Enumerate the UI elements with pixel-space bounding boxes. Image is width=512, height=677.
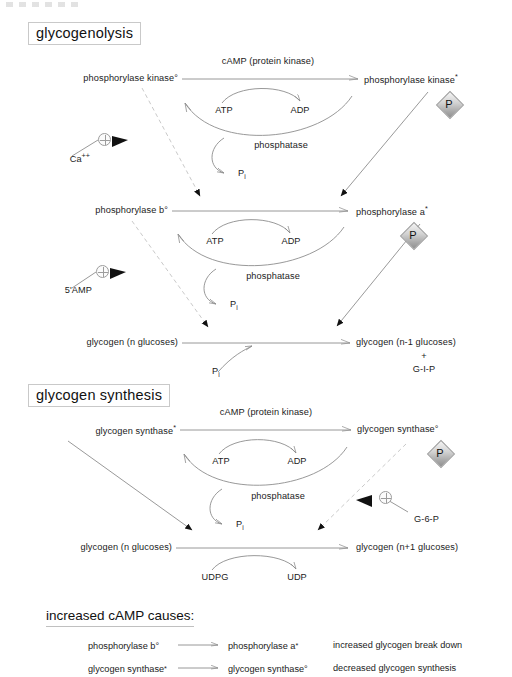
dashed-synthase-inactive-path xyxy=(318,444,406,530)
label-pi-1: Pi xyxy=(238,168,246,180)
arc-phosphatase-pi-2 xyxy=(204,269,216,304)
arrowhead-5amp-activation xyxy=(110,268,126,279)
section-title-glycogen-synthesis: glycogen synthesis xyxy=(28,384,170,407)
label-phosphorylase-kinase-inactive: phosphorylase kinase° xyxy=(83,73,178,83)
label-adp-2: ADP xyxy=(281,236,300,246)
arc-atp-adp-3 xyxy=(219,440,296,454)
arrowhead-g6p-activation xyxy=(356,495,372,507)
label-g-1-p: G-I-P xyxy=(413,364,435,374)
arrowhead-ca-activation xyxy=(112,136,128,147)
arc-pi-into-glycogen xyxy=(218,346,252,372)
arc-udpg-udp xyxy=(212,556,296,570)
label-atp-1: ATP xyxy=(215,105,233,115)
arc-phosphatase-reverse-1 xyxy=(185,96,352,135)
label-camp-protein-kinase-2: cAMP (protein kinase) xyxy=(220,407,312,417)
label-adp-1: ADP xyxy=(290,105,309,115)
summary-row-1-to: phosphorylase a* xyxy=(228,640,298,651)
summary-row-1-from: phosphorylase b° xyxy=(88,640,159,651)
label-phosphorylase-kinase-active: phosphorylase kinase* xyxy=(364,73,458,85)
label-calcium-activator: Ca++ xyxy=(70,152,90,164)
label-pi-2: Pi xyxy=(230,299,238,311)
label-pi-3: Pi xyxy=(212,366,220,378)
arc-atp-adp-1 xyxy=(222,88,300,103)
label-g6p-activator: G-6-P xyxy=(414,514,439,524)
summary-row-1: phosphorylase b° xyxy=(88,640,159,651)
label-glycogen-synthase-inactive: glycogen synthase° xyxy=(357,424,439,434)
label-atp-3: ATP xyxy=(212,456,230,466)
label-glycogen-n-glucoses-2: glycogen (n glucoses) xyxy=(81,542,172,552)
summary-row-2-effect: decreased glycogen synthesis xyxy=(333,663,456,673)
summary-row-2-to: glycogen synthase° xyxy=(228,663,308,674)
section-title-glycogenolysis: glycogenolysis xyxy=(28,22,141,45)
label-phosphatase-1: phosphatase xyxy=(254,140,308,150)
label-atp-2: ATP xyxy=(206,236,224,246)
arc-phosphatase-reverse-3 xyxy=(184,447,347,485)
label-glycogen-n-plus-1: glycogen (n+1 glucoses) xyxy=(356,542,458,552)
label-pi-4: Pi xyxy=(236,519,244,531)
label-phosphorylase-b: phosphorylase b° xyxy=(95,205,168,215)
label-phosphatase-2: phosphatase xyxy=(246,271,300,281)
label-plus-sign-1: + xyxy=(421,351,426,361)
dashed-phos-b-path xyxy=(132,221,208,327)
label-5amp-activator: 5'AMP xyxy=(65,285,92,295)
label-udpg: UDPG xyxy=(202,572,229,582)
activation-circled-plus-amp xyxy=(96,265,109,278)
diagram-canvas: glycogenolysis phosphorylase kinase° pho… xyxy=(0,0,512,677)
label-camp-protein-kinase-1: cAMP (protein kinase) xyxy=(222,56,314,66)
label-adp-3: ADP xyxy=(287,456,306,466)
phosphate-badge-synthase: P xyxy=(427,440,453,466)
top-edge-artifact xyxy=(6,2,80,7)
summary-row-1-effect: increased glycogen break down xyxy=(333,640,462,650)
activation-circled-plus-g6p xyxy=(379,491,392,504)
label-glycogen-n-minus-1: glycogen (n-1 glucoses) xyxy=(356,337,456,347)
arc-atp-adp-2 xyxy=(212,220,290,234)
label-phosphatase-3: phosphatase xyxy=(251,491,305,501)
summary-row-2-from: glycogen synthase* xyxy=(88,663,167,674)
phosphate-badge-phosphorylase: P xyxy=(400,222,426,248)
label-phosphorylase-a: phosphorylase a* xyxy=(356,205,428,217)
arc-phosphatase-pi-3 xyxy=(210,489,222,524)
arc-phosphatase-pi-1 xyxy=(212,138,224,173)
activation-circled-plus-calcium xyxy=(98,133,111,146)
summary-row-2-to-group: glycogen synthase° xyxy=(228,663,308,674)
arc-phosphatase-reverse-2 xyxy=(178,227,344,266)
summary-row-2: glycogen synthase* xyxy=(88,663,167,674)
arrow-kinase-active-to-phos-b xyxy=(341,92,428,196)
summary-row-1-to-group: phosphorylase a* xyxy=(228,640,298,651)
dashed-inactive-kinase-path xyxy=(142,88,200,196)
phosphate-badge-kinase: P xyxy=(436,91,462,117)
label-glycogen-n-glucoses-1: glycogen (n glucoses) xyxy=(87,337,178,347)
summary-heading: increased cAMP causes: xyxy=(46,608,194,627)
label-udp: UDP xyxy=(287,572,307,582)
arrow-synthase-active-to-glycogen xyxy=(68,441,192,530)
label-glycogen-synthase-active: glycogen synthase* xyxy=(95,424,176,436)
